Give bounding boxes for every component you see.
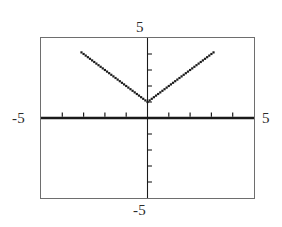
data-point (166, 87, 168, 89)
data-point (200, 61, 202, 63)
data-point (108, 72, 110, 74)
data-point (138, 95, 140, 97)
y-min-label: -5 (133, 203, 146, 218)
data-point (183, 74, 185, 76)
plot-frame (40, 37, 255, 199)
data-point (189, 69, 191, 71)
data-point (123, 83, 125, 85)
data-point (157, 93, 159, 95)
data-point (93, 61, 95, 63)
data-point (193, 66, 195, 68)
data-point (140, 96, 142, 98)
data-point (89, 58, 91, 60)
axes-layer (41, 38, 254, 198)
data-point (117, 79, 119, 81)
data-point (95, 63, 97, 65)
data-point (180, 75, 182, 77)
data-point (170, 83, 172, 85)
y-max-label: 5 (136, 20, 144, 35)
data-point (212, 51, 214, 53)
data-point (174, 80, 176, 82)
x-max-label: 5 (262, 111, 270, 126)
data-point (104, 69, 106, 71)
data-point (185, 72, 187, 74)
data-point (161, 90, 163, 92)
data-point (159, 91, 161, 93)
data-point (144, 99, 146, 101)
data-point (85, 55, 87, 57)
data-point (206, 56, 208, 58)
data-point (112, 75, 114, 77)
data-point (163, 88, 165, 90)
data-point (127, 87, 129, 89)
data-point (151, 98, 153, 100)
data-point (153, 96, 155, 98)
data-point (136, 93, 138, 95)
data-point (146, 101, 148, 103)
data-point (195, 64, 197, 66)
data-point (176, 79, 178, 81)
data-point (142, 98, 144, 100)
data-point (204, 58, 206, 60)
data-point (119, 80, 121, 82)
data-point (198, 63, 200, 65)
data-point (132, 90, 134, 92)
data-point (134, 91, 136, 93)
data-point (125, 85, 127, 87)
data-point (129, 88, 131, 90)
data-point (100, 66, 102, 68)
data-point (191, 67, 193, 69)
data-point (91, 59, 93, 61)
data-point (172, 82, 174, 84)
x-min-label: -5 (12, 111, 25, 126)
data-point (210, 53, 212, 55)
data-point (168, 85, 170, 87)
data-point (97, 64, 99, 66)
data-point (208, 55, 210, 57)
graphing-calculator-screenshot: 5 -5 -5 5 (0, 0, 282, 227)
data-point (121, 82, 123, 84)
data-point (87, 56, 89, 58)
data-point (106, 71, 108, 73)
data-point (102, 67, 104, 69)
data-point (114, 77, 116, 79)
plot-canvas (41, 38, 254, 198)
data-point (80, 51, 82, 53)
data-point (83, 53, 85, 55)
data-point (178, 77, 180, 79)
data-point (149, 99, 151, 101)
data-point (110, 74, 112, 76)
data-point (187, 71, 189, 73)
data-point (155, 95, 157, 97)
data-point (202, 59, 204, 61)
